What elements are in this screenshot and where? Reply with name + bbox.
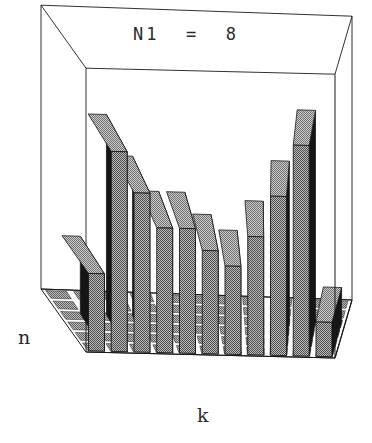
bar-front-face <box>180 228 196 353</box>
chart-plot-area <box>0 0 372 443</box>
bar-front-face <box>225 266 241 355</box>
bar-front-face <box>157 228 173 353</box>
box-edge <box>335 16 352 74</box>
bar-top-face <box>193 214 219 251</box>
bar-top-face <box>271 161 290 197</box>
bar-front-face <box>248 236 264 355</box>
bar-top-face <box>88 114 127 152</box>
box-edge <box>41 5 86 68</box>
bar-chart-3d-figure: N1 = 8 n k <box>0 0 372 443</box>
bar-8 <box>245 201 264 355</box>
bar-front-face <box>89 273 105 351</box>
axis-label-n: n <box>18 326 30 348</box>
bar-top-face <box>245 201 264 237</box>
box-edge <box>86 68 335 74</box>
bar-side-face <box>309 110 315 356</box>
bar-front-face <box>316 322 332 357</box>
bar-9 <box>271 161 290 356</box>
bar-front-face <box>271 196 287 355</box>
axis-label-k: k <box>197 404 209 426</box>
bar-front-face <box>202 250 218 354</box>
box-edge <box>41 5 352 16</box>
bar-front-face <box>111 151 127 351</box>
bar-10 <box>293 110 315 356</box>
bar-front-face <box>134 193 150 352</box>
bar-front-face <box>293 145 309 356</box>
bar-top-face <box>219 230 241 267</box>
bar-series <box>62 110 342 357</box>
